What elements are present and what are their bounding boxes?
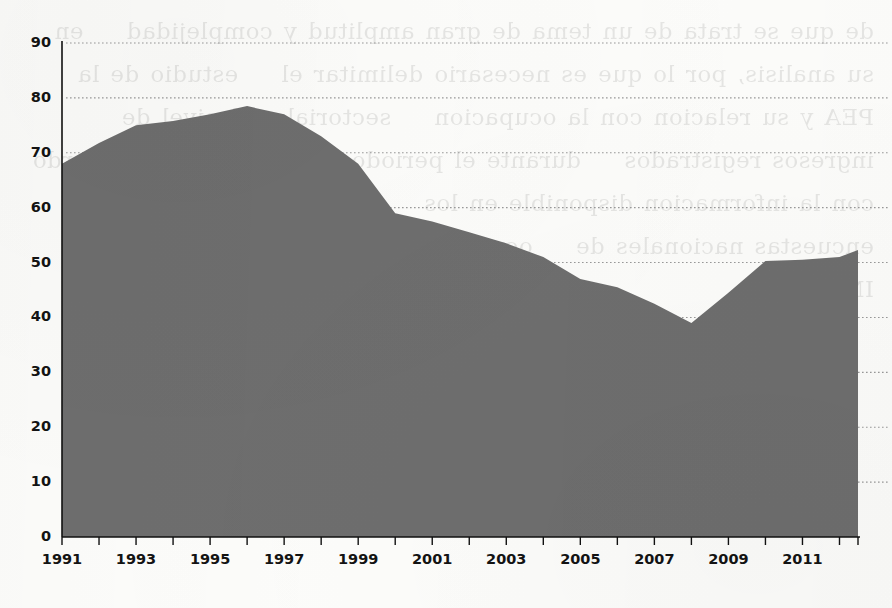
chart-canvas bbox=[0, 0, 892, 608]
x-tick-label-2011: 2011 bbox=[772, 551, 832, 567]
x-tick-label-2003: 2003 bbox=[476, 551, 536, 567]
y-tick-label-40: 40 bbox=[31, 308, 51, 324]
x-tick-label-2009: 2009 bbox=[698, 551, 758, 567]
x-tick-label-2005: 2005 bbox=[550, 551, 610, 567]
y-tick-label-60: 60 bbox=[31, 199, 51, 215]
y-tick-label-90: 90 bbox=[31, 34, 51, 50]
y-tick-label-20: 20 bbox=[31, 418, 51, 434]
y-tick-label-50: 50 bbox=[31, 254, 51, 270]
y-tick-label-30: 30 bbox=[31, 363, 51, 379]
x-tick-label-1999: 1999 bbox=[328, 551, 388, 567]
area-series-1 bbox=[62, 106, 858, 537]
x-tick-label-1997: 1997 bbox=[254, 551, 314, 567]
x-tick-label-1995: 1995 bbox=[180, 551, 240, 567]
x-tick-label-1991: 1991 bbox=[32, 551, 92, 567]
y-tick-label-80: 80 bbox=[31, 89, 51, 105]
area-chart: 0102030405060708090 19911993199519971999… bbox=[0, 0, 892, 608]
x-tick-label-1993: 1993 bbox=[106, 551, 166, 567]
y-tick-label-10: 10 bbox=[31, 473, 51, 489]
y-tick-label-70: 70 bbox=[31, 144, 51, 160]
x-tick-label-2001: 2001 bbox=[402, 551, 462, 567]
y-tick-label-0: 0 bbox=[41, 528, 51, 544]
x-tick-label-2007: 2007 bbox=[624, 551, 684, 567]
